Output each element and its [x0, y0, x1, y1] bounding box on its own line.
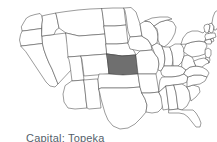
state-massachusetts[interactable]	[205, 33, 216, 40]
state-arkansas[interactable]	[138, 74, 159, 93]
state-north-carolina[interactable]	[187, 75, 207, 87]
state-north-dakota[interactable]	[102, 8, 126, 26]
state-wyoming[interactable]	[66, 33, 107, 57]
us-states-outline-map	[0, 0, 217, 132]
us-map-figure	[0, 0, 217, 132]
state-south-dakota[interactable]	[104, 25, 128, 44]
state-texas[interactable]	[99, 87, 147, 129]
state-washington[interactable]	[22, 14, 43, 32]
state-florida[interactable]	[169, 109, 201, 127]
state-montana[interactable]	[56, 9, 105, 37]
capital-caption: Capital: Topeka	[26, 132, 206, 142]
state-arizona[interactable]	[63, 80, 87, 109]
state-kansas[interactable]	[107, 54, 138, 75]
state-utah[interactable]	[68, 56, 84, 81]
caption-area: Capital: Topeka	[26, 132, 206, 142]
state-oregon[interactable]	[20, 29, 43, 47]
state-oklahoma[interactable]	[98, 74, 140, 89]
state-colorado[interactable]	[81, 54, 109, 76]
us-map-figure-container: Capital: Topeka	[0, 0, 217, 142]
state-new-jersey[interactable]	[205, 48, 211, 58]
